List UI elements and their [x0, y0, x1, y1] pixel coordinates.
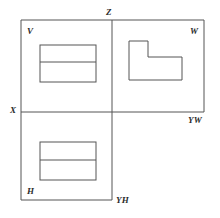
front-view-outline — [40, 45, 96, 82]
orthographic-projection-figure: Z V W X YW H YH — [0, 0, 220, 218]
side-view-lshape — [129, 41, 182, 80]
front-view-rectangle — [40, 45, 96, 82]
v-plane-outline — [21, 20, 112, 112]
axis-label-z: Z — [106, 8, 112, 17]
axis-label-x: X — [10, 106, 16, 115]
h-plane-outline — [21, 112, 112, 200]
top-view-outline — [40, 142, 96, 180]
plane-label-h: H — [27, 187, 34, 196]
side-view-lshape-outline — [129, 41, 182, 80]
axis-label-yw: YW — [188, 116, 202, 125]
top-view-rectangle — [40, 142, 96, 180]
projection-axes — [21, 20, 204, 200]
plane-label-w: W — [190, 27, 198, 36]
plane-label-v: V — [27, 27, 33, 36]
axis-label-yh: YH — [116, 196, 129, 205]
